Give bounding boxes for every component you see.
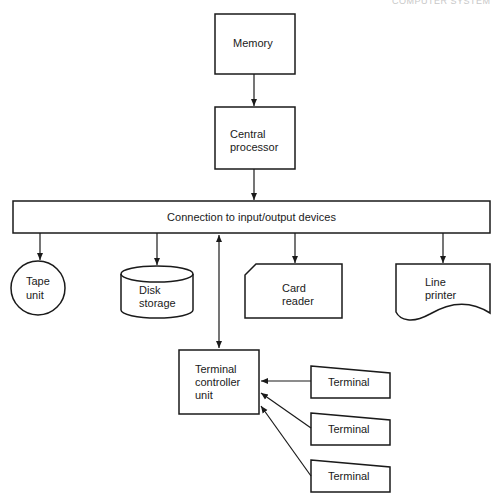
card-label-line2: reader — [282, 295, 314, 308]
terminal-1-label: Terminal — [328, 376, 370, 389]
controller-label-line2: controller — [195, 376, 240, 389]
controller-label-line3: unit — [195, 389, 213, 402]
edge-terminal2-controller — [261, 393, 311, 428]
terminal-3-label: Terminal — [328, 470, 370, 483]
controller-label-line1: Terminal — [195, 363, 237, 376]
tape-unit-circle — [11, 261, 65, 315]
printer-label-line1: Line — [425, 276, 446, 289]
terminal-2-label: Terminal — [328, 423, 370, 436]
disk-label-line2: storage — [139, 297, 176, 310]
disk-label-line1: Disk — [139, 284, 160, 297]
tape-label-line1: Tape — [26, 275, 50, 288]
diagram-canvas — [0, 0, 504, 503]
io-bus-label: Connection to input/output devices — [13, 211, 490, 224]
cpu-label-line2: processor — [230, 141, 278, 154]
cpu-label-line1: Central — [230, 128, 265, 141]
edge-terminal3-controller — [261, 406, 311, 476]
tape-label-line2: unit — [26, 289, 44, 302]
printer-label-line2: printer — [425, 289, 456, 302]
card-label-line1: Card — [282, 282, 306, 295]
memory-label: Memory — [233, 37, 273, 50]
